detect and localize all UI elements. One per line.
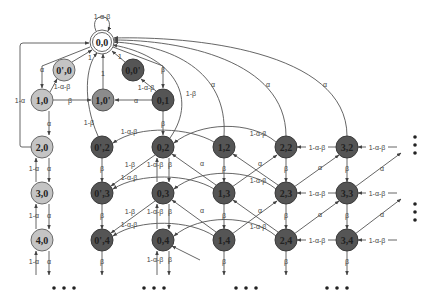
node-0-0: 0,0	[90, 30, 114, 54]
node-0-0p: 0,0'	[122, 59, 144, 81]
label-33-23: 1-α-β	[309, 190, 326, 198]
node-label: 4,0	[36, 235, 49, 246]
edge-in-04	[172, 246, 200, 260]
ellipsis-bottom-right-b	[325, 286, 349, 290]
label-02-03: β	[168, 161, 172, 169]
label-00-01: β	[161, 66, 165, 74]
label-23-03: 1-α-β	[250, 177, 267, 185]
label-10p-00: 1	[101, 70, 105, 77]
node-1-4: 1,4	[213, 229, 235, 251]
label-40-30: 1-α	[29, 212, 39, 219]
node-2-4: 2,4	[275, 229, 297, 251]
node-label: 0,1	[157, 95, 170, 106]
label-20-00: 1-α	[15, 97, 25, 104]
node-label: 1,3	[218, 188, 231, 199]
label-34-24: 1-α-β	[309, 237, 326, 245]
label-10-10p: β	[68, 97, 72, 105]
edge-20-00	[20, 43, 89, 147]
node-label: 0,2	[157, 142, 170, 153]
node-label: 3,2	[341, 142, 354, 153]
label-02-00: 1-β	[186, 90, 196, 98]
label-32-33: β	[345, 165, 349, 173]
label-30-20: 1-α	[29, 165, 39, 172]
ellipsis-right-lower	[413, 202, 417, 222]
label-13-0p3: 1-α-β	[121, 174, 138, 182]
edge-23-32	[294, 155, 339, 187]
label-12-13: β	[222, 165, 226, 173]
node-0p-2: 0',2	[91, 136, 113, 158]
label-01-00p: 1-α-β	[138, 84, 155, 92]
label-in-32: 1-α-β	[369, 144, 386, 152]
label-23-24: β	[284, 212, 288, 220]
ellipsis-bottom-mid	[142, 286, 166, 290]
label-0p3-0p4: β	[100, 212, 104, 220]
node-label: 3,4	[341, 235, 354, 246]
label-13-22: α	[258, 160, 262, 167]
label-0p0-00: 1	[88, 54, 92, 61]
label-in-33: 1-α-β	[369, 190, 386, 198]
label-12-0p2: 1-α-β	[121, 128, 138, 136]
label-02-0p3: 1-β	[125, 161, 135, 169]
label-34-down: β	[345, 258, 349, 266]
label-50-40: 1-α	[29, 258, 39, 265]
node-label: 0',2	[94, 142, 109, 153]
label-34-out: α	[380, 211, 384, 218]
label-0p4-down: β	[100, 258, 104, 266]
label-32-22: 1-α-β	[309, 144, 326, 152]
node-0p-4: 0',4	[91, 229, 113, 251]
node-2-0: 2,0	[31, 136, 53, 158]
label-01-10p: α	[134, 97, 138, 104]
edge-03-0p4	[111, 201, 155, 233]
label-32-00: α	[323, 81, 327, 88]
node-0p-0: 0',0	[53, 59, 75, 81]
label-33-34: β	[345, 212, 349, 220]
node-label: 0',3	[94, 188, 109, 199]
label-40-50: α	[47, 258, 51, 265]
node-label: 0,0	[96, 37, 109, 48]
node-0p-3: 0',3	[91, 182, 113, 204]
label-14-down: β	[222, 258, 226, 266]
edge-02-00	[113, 45, 182, 138]
label-in-34: 1-α-β	[369, 237, 386, 245]
node-label: 3,3	[341, 188, 354, 199]
node-label: 2,3	[280, 188, 293, 199]
node-1-0: 1,0	[31, 89, 53, 111]
label-12-00: α	[211, 81, 215, 88]
ellipsis-right-upper	[413, 135, 417, 155]
label-04-03: 1-α-β	[147, 208, 164, 216]
label-03-02: 1-α-β	[147, 161, 164, 169]
ellipsis-bottom-right-a	[234, 286, 258, 290]
label-24-down: β	[284, 258, 288, 266]
node-0-3: 0,3	[152, 182, 174, 204]
node-label: 1,2	[218, 142, 231, 153]
node-2-3: 2,3	[275, 182, 297, 204]
node-label: 2,4	[280, 235, 293, 246]
node-label: 1,0	[36, 95, 49, 106]
label-0p2-0p3: β	[100, 165, 104, 173]
node-label: 0',0	[56, 65, 71, 76]
ellipsis-bottom-left	[52, 286, 76, 290]
label-10-0p0: 1-α-β	[54, 83, 71, 91]
label-03-04: β	[168, 208, 172, 216]
label-22-23: β	[284, 165, 288, 173]
node-1-3: 1,3	[213, 182, 235, 204]
label-0p2-00: 1-β	[84, 119, 94, 127]
label-05-04: 1-α-β	[147, 256, 164, 264]
node-3-3: 3,3	[336, 182, 358, 204]
label-33-out: α	[380, 165, 384, 172]
label-13-02: α	[200, 160, 204, 167]
node-label: 0',4	[94, 235, 109, 246]
label-24-33: α	[318, 211, 322, 218]
label-20-30: α	[47, 165, 51, 172]
node-label: 1,4	[218, 235, 231, 246]
node-3-0: 3,0	[31, 182, 53, 204]
label-01-02: β	[161, 120, 165, 128]
label-23-32: α	[318, 164, 322, 171]
label-14-03: α	[200, 207, 204, 214]
node-label: 0,4	[157, 235, 170, 246]
edge-12-00	[114, 42, 224, 136]
node-0-2: 0,2	[152, 136, 174, 158]
continuation-dots	[52, 135, 417, 290]
label-03-0p4: 1-β	[125, 208, 135, 216]
edge-labels: 1-α-β 1-α α 1 1-α-β β 1 α 1 1-α-β β α β …	[15, 13, 388, 266]
